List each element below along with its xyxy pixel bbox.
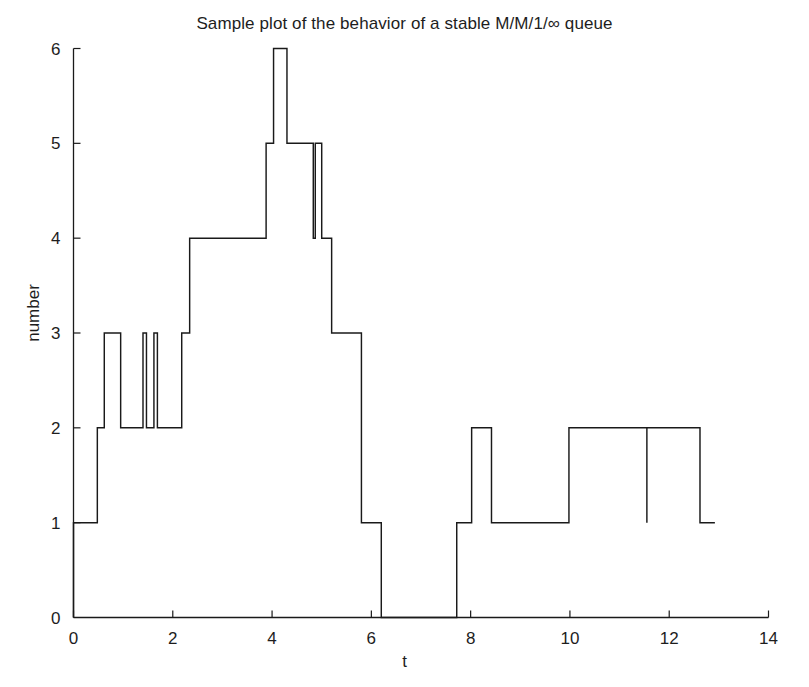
y-axis-tick-label: 5 [51,134,60,153]
x-axis-tick-label: 0 [69,629,78,648]
x-axis-tick-label: 8 [466,629,475,648]
y-axis-tick-label: 6 [51,40,60,59]
x-axis-tick-label: 14 [759,629,778,648]
axes-group [74,49,769,618]
x-axis-tick-label: 4 [267,629,276,648]
x-axis-tick-label: 6 [367,629,376,648]
axis-tick-labels-group: 024681012140123456 [51,40,778,648]
plot-area: 024681012140123456 [0,0,809,687]
axis-ticks-group [74,49,769,618]
x-axis-tick-label: 2 [168,629,177,648]
figure-canvas: Sample plot of the behavior of a stable … [0,0,809,687]
data-series-group [74,49,715,618]
y-axis-tick-label: 1 [51,514,60,533]
x-axis-tick-label: 10 [560,629,579,648]
y-axis-tick-label: 0 [51,609,60,628]
y-axis-tick-label: 4 [51,229,60,248]
x-axis-tick-label: 12 [660,629,679,648]
step-line-series [74,49,715,618]
y-axis-tick-label: 3 [51,324,60,343]
y-axis-tick-label: 2 [51,419,60,438]
